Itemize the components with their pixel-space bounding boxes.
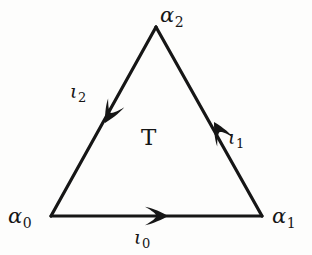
edge-glyph-subscript: 2: [78, 90, 86, 105]
vertex-label-alpha-2: α2: [160, 5, 183, 26]
vertex-label-alpha-1: α1: [272, 206, 295, 227]
edge-glyph-base: ι: [228, 126, 236, 148]
vertex-glyph-subscript: 1: [287, 215, 296, 231]
vertex-glyph-subscript: 0: [23, 215, 32, 231]
simplex-diagram: α0 α1 α2 ι0 ι1 ι2 T: [0, 0, 312, 255]
vertex-glyph-base: α: [8, 204, 22, 228]
edge-label-iota-2: ι2: [70, 82, 86, 101]
vertex-label-alpha-0: α0: [8, 206, 31, 227]
edge-line-i2: [51, 27, 156, 216]
edge-label-iota-0: ι0: [134, 228, 150, 247]
edge-glyph-base: ι: [70, 80, 78, 102]
edge-glyph-subscript: 0: [142, 236, 150, 251]
edge-glyph-base: ι: [134, 226, 142, 248]
edge-label-iota-1: ι1: [228, 128, 244, 147]
vertex-glyph-subscript: 2: [175, 14, 184, 30]
edge-line-i1: [156, 27, 262, 216]
edge-glyph-subscript: 1: [236, 136, 244, 151]
interior-label-T: T: [141, 126, 156, 149]
vertex-glyph-base: α: [160, 3, 174, 27]
vertex-glyph-base: α: [272, 204, 286, 228]
